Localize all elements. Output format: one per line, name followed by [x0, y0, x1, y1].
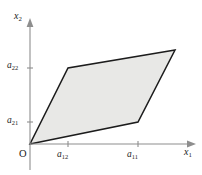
- y-axis-label: x2: [14, 11, 22, 21]
- y-tick-label-a22-subscript: 22: [12, 64, 18, 71]
- y-axis-arrowhead: [27, 18, 34, 27]
- x-tick-label-a11: a11: [127, 150, 138, 160]
- y-axis-label-subscript: 2: [18, 15, 21, 22]
- y-tick-label-a21: a21: [7, 116, 18, 126]
- parallelogram-shape: [30, 50, 175, 144]
- x-axis-label-subscript: 1: [188, 151, 191, 158]
- x-tick-label-a12: a12: [57, 150, 68, 160]
- y-tick-label-a22: a22: [7, 61, 18, 71]
- figure-canvas: [0, 0, 202, 175]
- x-tick-label-a11-subscript: 11: [132, 153, 138, 160]
- x-tick-label-a12-subscript: 12: [62, 153, 68, 160]
- origin-label: O: [19, 149, 27, 160]
- geometry-figure: x2 x1 a22 a21 a12 a11 O: [0, 0, 202, 175]
- x-axis-label: x1: [184, 147, 192, 157]
- y-tick-label-a21-subscript: 21: [12, 119, 18, 126]
